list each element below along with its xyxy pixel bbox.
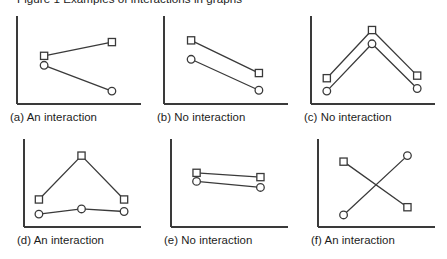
panel-c-series-circle-line (327, 44, 417, 91)
panel-b-marker-circle (255, 86, 263, 94)
panel-d-marker-square (120, 196, 127, 203)
panel-c-marker-circle (413, 85, 421, 93)
panel-f (311, 137, 439, 233)
panel-b-marker-circle (187, 55, 195, 63)
panel-f-marker-circle (340, 211, 348, 219)
panel-c-caption: (c) No interaction (304, 111, 392, 124)
panel-d-caption: (d) An interaction (17, 234, 104, 247)
panel-e (164, 137, 292, 233)
panel-c-marker-circle (368, 40, 376, 48)
panel-b-series-circle-line (191, 59, 259, 90)
panel-d-marker-circle (35, 210, 43, 218)
panel-e-marker-square (193, 169, 200, 176)
panel-d-plot (17, 137, 145, 233)
panel-d-marker-square (35, 196, 42, 203)
panel-e-caption: (e) No interaction (164, 234, 252, 247)
panel-a-plot (10, 14, 145, 110)
panel-c-marker-square (368, 26, 375, 33)
panel-c (304, 14, 439, 110)
panel-c-marker-square (323, 75, 330, 82)
panel-e-marker-square (257, 174, 264, 181)
panel-f-marker-square (404, 204, 411, 211)
panel-d-marker-circle (120, 208, 128, 216)
panel-a-series-circle-line (44, 65, 112, 91)
panel-d (17, 137, 145, 233)
panel-b-marker-square (188, 37, 195, 44)
panel-b-caption: (b) No interaction (157, 111, 245, 124)
panel-d-marker-square (78, 152, 85, 159)
interaction-figure: Figure 1 Examples of interactions in gra… (0, 0, 447, 259)
panel-e-plot (164, 137, 292, 233)
panel-e-series-circle-line (197, 181, 261, 187)
panel-a-caption: (a) An interaction (10, 111, 97, 124)
panel-b-series-square-line (191, 40, 259, 73)
panel-b-plot (157, 14, 292, 110)
panel-f-plot (311, 137, 439, 233)
panel-e-series-square-line (197, 173, 261, 177)
panel-a-marker-circle (40, 62, 48, 70)
panel-a-series-square-line (44, 42, 112, 56)
panel-a-marker-circle (108, 87, 116, 95)
panel-d-series-square-line (39, 156, 124, 200)
panel-c-marker-square (414, 72, 421, 79)
panel-e-marker-circle (257, 184, 265, 192)
panel-e-marker-circle (193, 178, 201, 186)
panel-a-marker-square (41, 52, 48, 59)
panel-a (10, 14, 145, 110)
panel-b (157, 14, 292, 110)
panel-d-marker-circle (78, 205, 86, 213)
panel-f-marker-square (340, 158, 347, 165)
panel-f-series-circle-line (344, 156, 408, 215)
panel-grid: (a) An interaction (b) No interaction (c… (0, 0, 447, 259)
panel-a-marker-square (108, 38, 115, 45)
panel-c-plot (304, 14, 439, 110)
panel-f-marker-circle (404, 152, 412, 160)
panel-f-caption: (f) An interaction (311, 234, 395, 247)
panel-c-marker-circle (323, 87, 331, 95)
panel-b-marker-square (255, 69, 262, 76)
panel-c-series-square-line (327, 30, 417, 78)
